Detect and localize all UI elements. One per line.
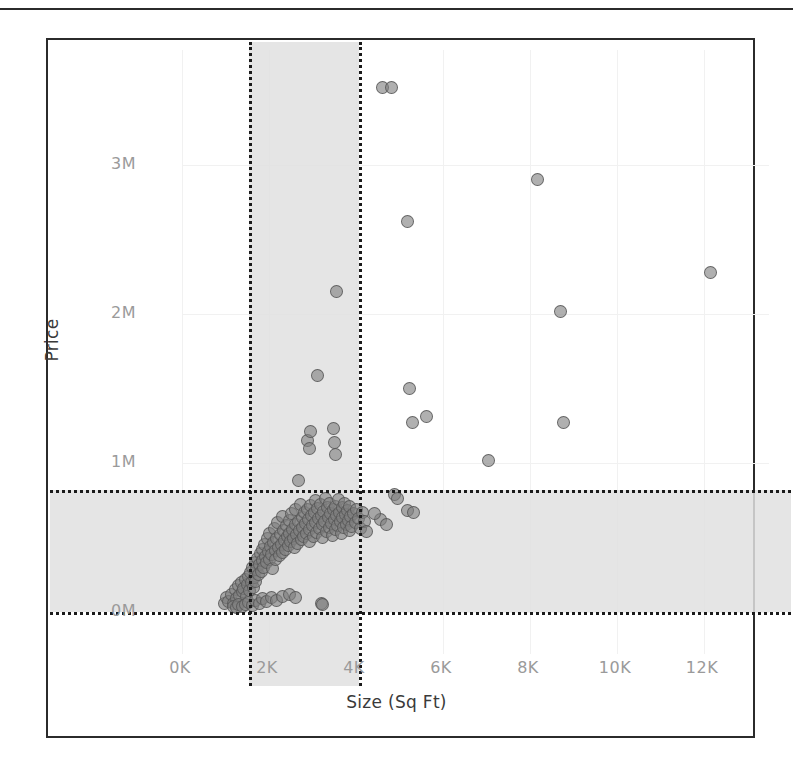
scatter-point[interactable] (482, 454, 495, 467)
chart-page: 0M1M2M3M 0K2K4K6K8K10K12K Size (Sq Ft) P… (0, 0, 793, 784)
size-selection-handle[interactable] (249, 42, 252, 686)
x-tick-label: 4K (343, 658, 365, 677)
scatter-point[interactable] (557, 416, 570, 429)
scatter-point[interactable] (406, 416, 419, 429)
y-tick-label: 2M (111, 303, 136, 322)
scatter-point[interactable] (407, 506, 420, 519)
plot-area[interactable] (182, 50, 769, 654)
y-axis-title: Price (42, 280, 62, 400)
scatter-point[interactable] (328, 436, 341, 449)
chart-frame (46, 38, 755, 738)
scatter-point[interactable] (311, 369, 324, 382)
scatter-point[interactable] (401, 215, 414, 228)
scatter-point[interactable] (289, 591, 302, 604)
size-selection-handle[interactable] (359, 42, 362, 686)
x-axis-title: Size (Sq Ft) (0, 692, 793, 712)
x-axis-ticks: 0K2K4K6K8K10K12K (0, 658, 793, 684)
scatter-point[interactable] (704, 266, 717, 279)
x-tick-label: 8K (517, 658, 539, 677)
y-tick-label: 3M (111, 154, 136, 173)
y-tick-label: 1M (111, 452, 136, 471)
scatter-point[interactable] (531, 173, 544, 186)
scatter-point[interactable] (368, 507, 381, 520)
price-selection-handle[interactable] (50, 490, 791, 493)
scatter-point[interactable] (403, 382, 416, 395)
price-selection-band[interactable] (50, 490, 791, 612)
scatter-point[interactable] (554, 305, 567, 318)
y-tick-label: 0M (111, 601, 136, 620)
scatter-point[interactable] (385, 81, 398, 94)
scatter-point[interactable] (329, 448, 342, 461)
price-selection-handle[interactable] (50, 612, 791, 615)
size-selection-band[interactable] (249, 42, 359, 686)
x-tick-label: 6K (430, 658, 452, 677)
x-tick-label: 12K (686, 658, 718, 677)
x-tick-label: 10K (599, 658, 631, 677)
scatter-point[interactable] (303, 442, 316, 455)
x-tick-label: 0K (169, 658, 191, 677)
x-tick-label: 2K (256, 658, 278, 677)
scatter-point[interactable] (420, 410, 433, 423)
